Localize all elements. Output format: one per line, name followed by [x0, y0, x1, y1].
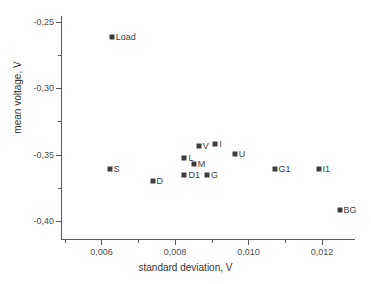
x-tick-minor: [212, 240, 213, 243]
data-point-label: BG: [344, 205, 357, 215]
x-tick-minor: [65, 240, 66, 243]
y-tick-major: [56, 88, 61, 89]
data-point-label: Load: [116, 32, 136, 42]
y-axis-line: [61, 16, 62, 240]
data-point: [107, 166, 112, 171]
y-tick-label: -0,30: [33, 83, 54, 93]
data-point-label: S: [114, 164, 120, 174]
data-point: [204, 172, 209, 177]
data-point-label: U: [239, 149, 246, 159]
x-tick-major: [101, 240, 102, 245]
data-point: [213, 142, 218, 147]
y-tick-major: [56, 221, 61, 222]
data-point: [337, 207, 342, 212]
data-point: [182, 172, 187, 177]
x-tick-major: [175, 240, 176, 245]
y-tick-label: -0,25: [33, 17, 54, 27]
plot-area: -0,25-0,30-0,35-0,40 0,0060,0080,0100,01…: [61, 16, 355, 240]
x-tick-label: 0,012: [311, 247, 334, 257]
x-axis-title: standard deviation, V: [0, 262, 371, 273]
data-point-label: G: [211, 170, 218, 180]
data-point: [150, 179, 155, 184]
data-point-label: I1: [323, 164, 331, 174]
data-point-label: D: [157, 176, 164, 186]
x-tick-major: [248, 240, 249, 245]
y-tick-major: [56, 155, 61, 156]
y-tick-label: -0,40: [33, 216, 54, 226]
x-tick-label: 0,006: [90, 247, 113, 257]
data-point-label: G1: [279, 164, 291, 174]
y-tick-major: [56, 22, 61, 23]
x-tick-label: 0,010: [237, 247, 260, 257]
data-point-label: V: [203, 141, 209, 151]
y-axis-title: mean voltage, V: [12, 23, 23, 173]
data-point-label: I: [219, 139, 222, 149]
data-point-label: M: [198, 159, 206, 169]
x-tick-minor: [285, 240, 286, 243]
data-point: [109, 35, 114, 40]
data-point: [316, 166, 321, 171]
data-point: [272, 166, 277, 171]
data-point: [191, 161, 196, 166]
y-tick-minor: [58, 55, 61, 56]
scatter-plot-figure: -0,25-0,30-0,35-0,40 0,0060,0080,0100,01…: [0, 0, 371, 284]
y-tick-minor: [58, 188, 61, 189]
data-point-label: D1: [188, 170, 200, 180]
x-tick-major: [322, 240, 323, 245]
y-tick-label: -0,35: [33, 150, 54, 160]
data-point: [182, 156, 187, 161]
data-point: [196, 143, 201, 148]
y-tick-minor: [58, 121, 61, 122]
x-tick-label: 0,008: [164, 247, 187, 257]
x-tick-minor: [138, 240, 139, 243]
x-axis-line: [61, 239, 355, 240]
data-point: [232, 151, 237, 156]
